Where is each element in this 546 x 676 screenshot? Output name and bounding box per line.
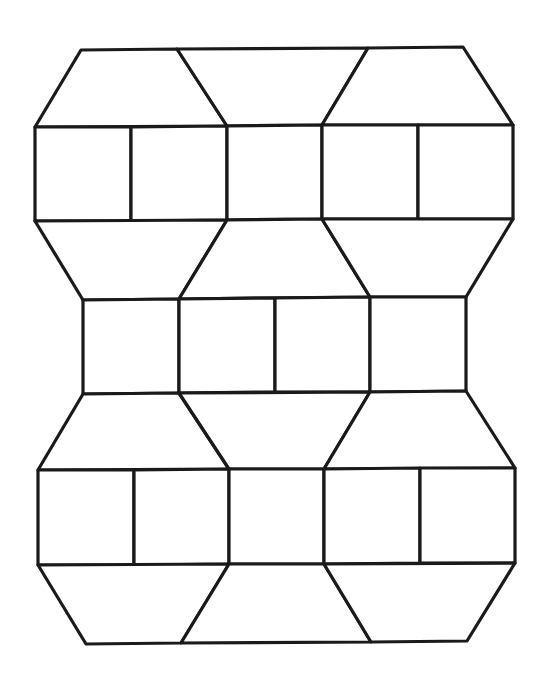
tiling-diagram <box>0 0 546 676</box>
square-shape-sq-r2-4 <box>370 297 466 392</box>
square-shape-sq-r2-3 <box>275 297 370 392</box>
square-shape-sq-r1-1 <box>35 127 131 221</box>
square-shape-sq-r1-2 <box>131 126 227 221</box>
square-shape-sq-r2-2 <box>179 298 275 393</box>
tiling-shapes <box>35 47 515 644</box>
square-shape-sq-r1-3 <box>227 125 322 220</box>
square-shape-sq-r3-3 <box>229 469 324 564</box>
square-shape-sq-r2-1 <box>83 299 179 394</box>
square-shape-sq-r3-5 <box>420 468 515 563</box>
square-shape-sq-r3-2 <box>134 469 229 565</box>
square-shape-sq-r1-5 <box>418 125 513 219</box>
square-shape-sq-r3-4 <box>324 468 420 564</box>
square-shape-sq-r3-1 <box>38 470 134 565</box>
square-shape-sq-r1-4 <box>322 125 418 219</box>
